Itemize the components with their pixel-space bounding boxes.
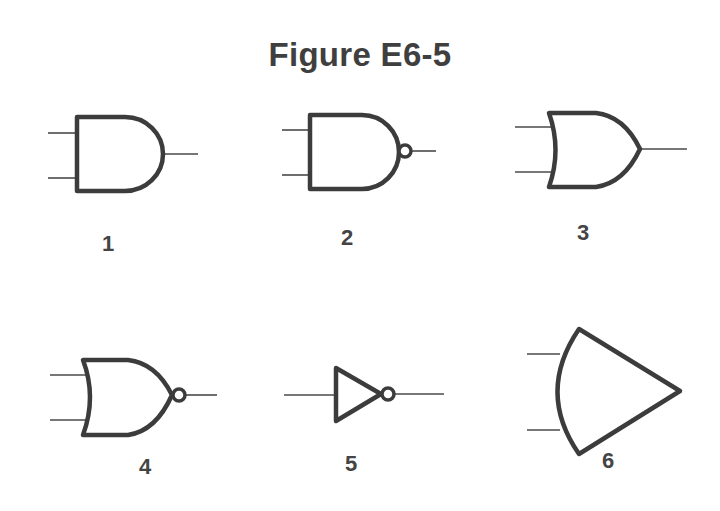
- gate-5-body: [336, 368, 381, 421]
- gate-6-label: 6: [602, 448, 614, 474]
- gate-1-label: 1: [102, 231, 114, 257]
- gate-3-label: 3: [577, 220, 589, 246]
- gate-2-body: [310, 115, 399, 189]
- gate-4-label: 4: [139, 454, 151, 480]
- curved-triangle-gate-icon: [527, 329, 680, 454]
- gate-3-body: [549, 113, 640, 187]
- gate-2-inversion-bubble: [399, 145, 411, 157]
- gate-2-label: 2: [341, 225, 353, 251]
- and-gate-icon: [48, 117, 198, 191]
- gate-5-inversion-bubble: [382, 388, 394, 400]
- gate-6-body: [558, 329, 681, 454]
- gate-4-inversion-bubble: [173, 389, 185, 401]
- or-gate-icon: [515, 113, 687, 187]
- gate-1-body: [77, 117, 163, 191]
- gate-5-label: 5: [345, 451, 357, 477]
- gate-4-body: [83, 360, 172, 435]
- not-gate-icon: [284, 368, 444, 421]
- nor-gate-icon: [50, 360, 217, 435]
- nand-gate-icon: [282, 115, 436, 189]
